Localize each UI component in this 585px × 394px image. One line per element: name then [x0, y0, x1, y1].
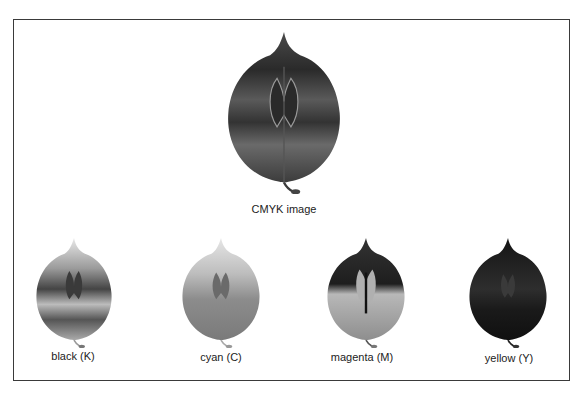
- black-channel-leaf-image: [35, 238, 113, 348]
- cyan-channel-caption: cyan (C): [200, 351, 242, 363]
- yellow-channel-caption: yellow (Y): [485, 352, 533, 364]
- cyan-channel-leaf-image: [181, 238, 261, 348]
- magenta-channel-caption: magenta (M): [331, 351, 393, 363]
- cmyk-composite-leaf-image: [226, 32, 342, 194]
- cmyk-image-caption: CMYK image: [252, 203, 317, 215]
- yellow-channel-leaf-image: [468, 238, 548, 348]
- black-channel-caption: black (K): [51, 350, 94, 362]
- magenta-channel-leaf-image: [326, 238, 406, 348]
